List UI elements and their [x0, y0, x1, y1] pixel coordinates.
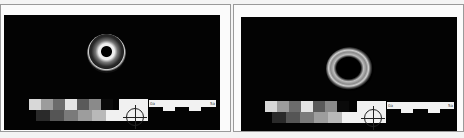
ruler-start-label: 0a [150, 101, 155, 106]
ruler-start-label: 0a [388, 103, 393, 108]
left-image-panel: 0a 5a [0, 4, 231, 132]
swatch [78, 110, 92, 121]
specimen-ring-left [87, 34, 126, 73]
swatch [289, 101, 301, 112]
swatch [313, 101, 325, 112]
ruler-tick [163, 107, 175, 111]
swatch [77, 99, 89, 110]
crosshair-target-icon [364, 109, 382, 127]
swatch [328, 112, 342, 123]
swatch [50, 110, 64, 121]
scale-ruler: 0a 5a [387, 102, 454, 109]
swatch [36, 110, 50, 121]
swatch [325, 101, 337, 112]
swatch [286, 112, 300, 123]
swatch [92, 110, 106, 121]
swatch [89, 99, 101, 110]
gray-card-top-row [29, 99, 113, 110]
ruler-end-label: 5a [210, 101, 215, 106]
ruler-tick [401, 109, 413, 113]
specimen-photo-left: 0a 5a [4, 15, 220, 130]
swatch [337, 101, 349, 112]
ruler-tick [189, 107, 201, 111]
swatch [53, 99, 65, 110]
ruler-tick [428, 109, 440, 113]
specimen-photo-right: 0a 5a [241, 17, 457, 131]
swatch [277, 101, 289, 112]
right-image-panel: 0a 5a [233, 4, 464, 132]
swatch [300, 112, 314, 123]
swatch [301, 101, 313, 112]
swatch [65, 99, 77, 110]
swatch [29, 99, 41, 110]
swatch [101, 99, 113, 110]
swatch [64, 110, 78, 121]
gray-card-top-row [265, 101, 349, 112]
swatch [272, 112, 286, 123]
scale-ruler: 0a 5a [149, 100, 216, 107]
specimen-ring-right [326, 47, 374, 91]
swatch [314, 112, 328, 123]
crosshair-target-icon [126, 108, 144, 126]
swatch [265, 101, 277, 112]
swatch [41, 99, 53, 110]
ruler-end-label: 5a [448, 103, 453, 108]
